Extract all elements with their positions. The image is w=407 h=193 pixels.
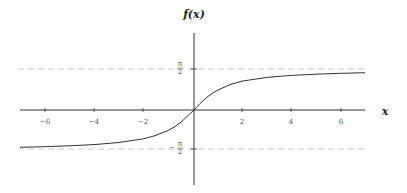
arctan-chart: −6 −4 −2 2 4 6 π 2 − π 2 f(x) x <box>0 0 407 193</box>
y-tick-label-neg-pi-half: − π 2 <box>169 140 183 156</box>
y-tick-label-pi-half: π 2 <box>177 60 183 76</box>
svg-text:2: 2 <box>178 68 182 76</box>
x-tick-label: 4 <box>289 118 294 126</box>
svg-text:π: π <box>178 60 183 68</box>
x-tick-label: −2 <box>138 118 148 126</box>
y-axis-label: f(x) <box>182 8 205 21</box>
svg-text:−: − <box>169 144 175 152</box>
x-tick-label: −4 <box>89 118 100 126</box>
svg-text:π: π <box>178 140 183 148</box>
x-tick-label: 6 <box>339 118 344 126</box>
x-tick-label: −6 <box>40 118 51 126</box>
x-tick-label: 2 <box>240 118 244 126</box>
svg-text:2: 2 <box>178 148 182 156</box>
x-axis-label: x <box>381 105 389 118</box>
